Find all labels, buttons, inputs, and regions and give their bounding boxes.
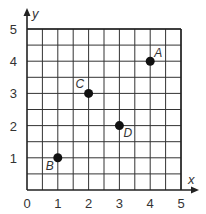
x-axis-arrow-icon [191, 187, 199, 194]
point-c [84, 89, 93, 98]
x-tick-label: 0 [23, 196, 30, 211]
y-tick-label: 4 [10, 54, 17, 69]
y-tick-label: 1 [10, 151, 17, 166]
y-axis-arrow-icon [24, 8, 31, 16]
point-label-b: B [46, 159, 54, 173]
x-tick-label: 2 [85, 196, 92, 211]
x-tick-labels: 012345 [23, 196, 184, 211]
x-tick-label: 1 [54, 196, 61, 211]
y-tick-label: 2 [10, 119, 17, 134]
y-axis-label: y [31, 6, 40, 21]
point-b [53, 153, 62, 162]
y-tick-labels: 12345 [10, 22, 17, 166]
point-label-d: D [123, 126, 132, 140]
y-tick-label: 5 [10, 22, 17, 37]
coordinate-grid: y x 012345 12345 ABCD [0, 0, 206, 214]
y-tick-label: 3 [10, 86, 17, 101]
x-tick-label: 4 [147, 196, 154, 211]
x-axis-label: x [187, 172, 195, 187]
point-label-c: C [76, 77, 85, 91]
x-tick-label: 3 [116, 196, 123, 211]
point-label-a: A [153, 46, 162, 60]
x-tick-label: 5 [177, 196, 184, 211]
